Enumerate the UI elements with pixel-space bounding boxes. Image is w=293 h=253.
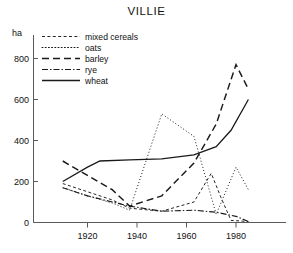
y-tick-label-200: 200 [14,177,29,187]
y-tick-label-600: 600 [14,95,29,105]
chart-plot: 0 200 400 600 800 1920 1940 1960 1980 [0,0,293,253]
y-tick-label-0: 0 [24,218,29,228]
series-line-mixed-cereals [63,173,249,221]
x-tick-label-1960: 1960 [176,231,196,241]
legend-label-wheat: wheat [84,76,109,86]
x-tick-label-1980: 1980 [226,231,246,241]
data-series-group [63,65,249,222]
x-tick-label-1940: 1940 [127,231,147,241]
axes-group [34,35,287,223]
chart-legend: mixed cereals oats barley rye wheat [42,32,138,86]
chart-container: VILLIE ha 0 200 400 600 800 1920 1940 19… [0,0,293,253]
legend-label-oats: oats [85,43,101,53]
y-axis-ticks: 0 200 400 600 800 [14,54,38,228]
legend-label-barley: barley [85,54,109,64]
x-axis-ticks: 1920 1940 1960 1980 [77,223,246,242]
series-line-wheat [63,100,249,182]
x-tick-label-1920: 1920 [77,231,97,241]
series-line-barley [63,65,249,206]
legend-label-mixed-cereals: mixed cereals [85,32,138,42]
y-tick-label-800: 800 [14,54,29,64]
legend-label-rye: rye [85,65,97,75]
series-line-oats [63,114,249,214]
y-tick-label-400: 400 [14,136,29,146]
